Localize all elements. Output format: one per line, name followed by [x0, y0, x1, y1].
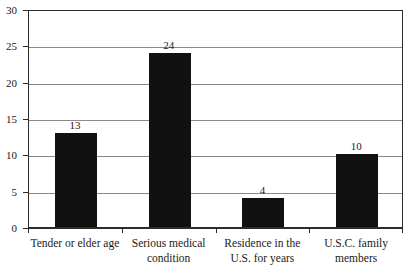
- y-tick-mark-25: [23, 46, 28, 47]
- x-tick-mark: [309, 228, 310, 233]
- x-axis-category-label: Tender or elder age: [28, 236, 122, 251]
- y-axis-tick-label: 30: [0, 5, 17, 16]
- y-axis-line: [28, 10, 29, 228]
- y-axis-tick-label: 5: [0, 187, 17, 198]
- y-axis-tick-label: 15: [0, 114, 17, 125]
- gridline-25: [29, 47, 402, 48]
- x-tick-mark: [216, 228, 217, 233]
- x-tick-mark: [122, 228, 123, 233]
- bar-value-label: 13: [34, 120, 116, 131]
- bar-value-label: 24: [128, 40, 210, 51]
- bar-chart: 05101520253013Tender or elder age24Serio…: [0, 0, 412, 278]
- bar-value-label: 10: [315, 141, 397, 152]
- y-tick-mark-15: [23, 119, 28, 120]
- x-axis-category-label: U.S.C. family members: [309, 236, 403, 265]
- y-tick-mark-5: [23, 192, 28, 193]
- y-tick-mark-20: [23, 83, 28, 84]
- y-tick-mark-30: [23, 10, 28, 11]
- y-axis-tick-label: 0: [0, 223, 17, 234]
- bar[interactable]: [55, 133, 97, 227]
- y-axis-tick-label: 25: [0, 41, 17, 52]
- x-tick-mark-edge: [28, 228, 29, 233]
- bar-value-label: 4: [221, 185, 303, 196]
- bar[interactable]: [149, 53, 191, 227]
- bar[interactable]: [336, 154, 378, 227]
- gridline-20: [29, 84, 402, 85]
- x-tick-mark-edge: [402, 228, 403, 233]
- bar[interactable]: [242, 198, 284, 227]
- y-tick-mark-10: [23, 155, 28, 156]
- x-axis-category-label: Serious medical condition: [122, 236, 216, 265]
- x-axis-category-label: Residence in the U.S. for years: [216, 236, 310, 265]
- y-axis-tick-label: 20: [0, 78, 17, 89]
- y-axis-tick-label: 10: [0, 150, 17, 161]
